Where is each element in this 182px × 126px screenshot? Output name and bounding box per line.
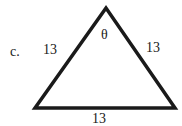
side-bottom-length: 13 xyxy=(92,112,106,126)
problem-label: c. xyxy=(10,45,20,59)
side-right-length: 13 xyxy=(146,41,160,55)
side-left-length: 13 xyxy=(43,43,57,57)
angle-theta-label: θ xyxy=(101,28,108,42)
triangle xyxy=(35,8,175,108)
triangle-figure xyxy=(0,0,182,126)
